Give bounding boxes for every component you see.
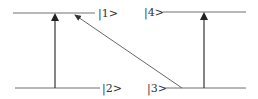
level-3-label: |3> (147, 82, 167, 96)
level-2-label: |2> (102, 82, 122, 96)
transition-3-to-1-arrow (75, 15, 182, 88)
level-4-label: |4> (144, 6, 164, 20)
level-1-label: |1> (98, 7, 118, 21)
energy-level-diagram: |1> |4> |2> |3> (0, 0, 258, 99)
